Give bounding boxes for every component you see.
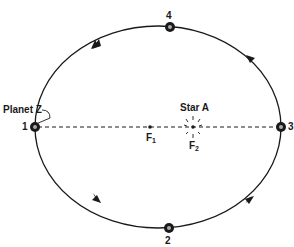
focus-f2-label: F2 [189, 141, 199, 152]
position-3-marker [276, 122, 286, 132]
arrowhead-lower-left-icon [92, 195, 101, 203]
star-a-label: Star A [180, 103, 209, 113]
position-4-label: 4 [166, 11, 172, 21]
position-3-label: 3 [288, 122, 294, 132]
position-1-label: 1 [22, 122, 28, 132]
focus-f1-label: F1 [146, 133, 156, 144]
position-1-marker [30, 122, 40, 132]
position-2-label: 2 [165, 236, 171, 246]
planet-z-label: Planet Z [3, 105, 42, 115]
position-2-marker [164, 223, 174, 233]
focus-f1-dot [148, 125, 152, 129]
orbit-diagram [0, 0, 294, 247]
arrowhead-upper-right-icon [246, 55, 255, 63]
position-4-marker [165, 22, 175, 32]
